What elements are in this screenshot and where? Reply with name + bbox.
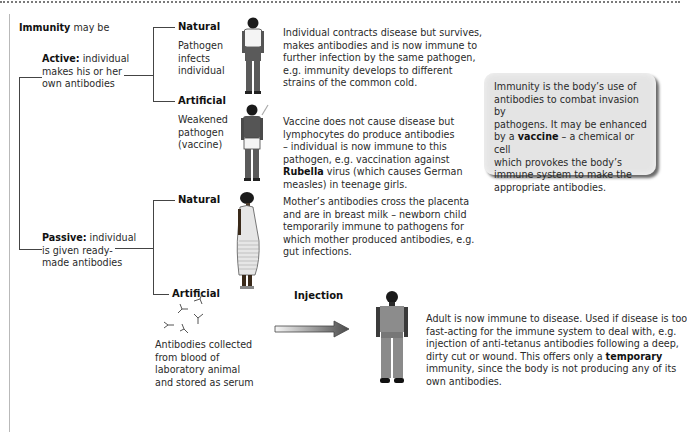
active-artificial-caption: Weakened pathogen (vaccine) bbox=[178, 114, 228, 152]
description-line: immunity, since the body is not producin… bbox=[426, 363, 687, 376]
bracket-main-top bbox=[19, 77, 42, 78]
injection-label: Injection bbox=[294, 290, 343, 301]
vaccinated-man-icon bbox=[240, 103, 270, 183]
passive-artificial-description: Adult is now immune to disease. Used if … bbox=[426, 313, 687, 389]
description-line: own antibodies. bbox=[426, 376, 687, 389]
callout-line: antibodies to combat invasion by bbox=[494, 94, 648, 119]
pregnant-woman-icon bbox=[233, 191, 263, 291]
bracket-main-vertical bbox=[19, 77, 20, 250]
standing-adult-icon bbox=[375, 290, 409, 386]
diagram-title: Immunity may be bbox=[19, 22, 109, 35]
passive-label: Passive: bbox=[42, 232, 87, 243]
bracket-active-bottom bbox=[153, 101, 175, 102]
description-line: Individual contracts disease but survive… bbox=[283, 27, 482, 40]
active-natural-label: Natural bbox=[178, 21, 220, 32]
title-rest: may be bbox=[70, 22, 109, 33]
bracket-passive-vertical bbox=[153, 200, 154, 295]
description-line: Vaccine does not cause disease but bbox=[283, 116, 462, 129]
caption-line: Antibodies collected bbox=[155, 339, 254, 352]
callout-line: appropriate antibodies. bbox=[494, 182, 648, 195]
description-line: gut infections. bbox=[283, 246, 474, 259]
callout-line: pathogens. It may be enhanced bbox=[494, 119, 648, 132]
top-dotted-rule bbox=[0, 1, 680, 3]
active-description: Active: individual makes his or her own … bbox=[42, 53, 129, 91]
passive-artificial-caption: Antibodies collected from blood of labor… bbox=[155, 339, 254, 389]
description-line: Mother’s antibodies cross the placenta bbox=[283, 196, 474, 209]
bracket-main-bottom bbox=[19, 249, 42, 250]
description-line: – individual is now immune to this bbox=[283, 141, 462, 154]
description-line: lymphocytes do produce antibodies bbox=[283, 129, 462, 142]
passive-line3: made antibodies bbox=[42, 257, 136, 270]
bracket-active-stub bbox=[124, 75, 153, 76]
passive-natural-description: Mother’s antibodies cross the placenta a… bbox=[283, 196, 474, 259]
rubella-bold: Rubella bbox=[283, 166, 324, 177]
active-artificial-description: Vaccine does not cause disease but lymph… bbox=[283, 116, 462, 192]
description-line: e.g. immunity develops to different bbox=[283, 65, 482, 78]
passive-description: Passive: individual is given ready- made… bbox=[42, 232, 136, 270]
caption-line: and stored as serum bbox=[155, 377, 254, 390]
caption-line: Weakened bbox=[178, 114, 228, 127]
caption-line: pathogen bbox=[178, 127, 228, 140]
description-line: makes antibodies and is now immune to bbox=[283, 40, 482, 53]
antibody-y-shapes-icon bbox=[158, 292, 218, 338]
left-margin-rule bbox=[9, 14, 10, 432]
description-line: virus (which causes German bbox=[324, 166, 463, 177]
standing-man-icon bbox=[240, 17, 266, 95]
callout-line: by a bbox=[494, 131, 518, 142]
description-line: and are in breast milk – newborn child bbox=[283, 209, 474, 222]
caption-line: Pathogen bbox=[178, 40, 225, 53]
bracket-passive-stub bbox=[115, 248, 153, 249]
caption-line: infects bbox=[178, 53, 225, 66]
description-line: which mother produced antibodies, e.g. bbox=[283, 234, 474, 247]
caption-line: individual bbox=[178, 65, 225, 78]
description-line: fast-acting for the immune system to dea… bbox=[426, 326, 687, 339]
active-natural-description: Individual contracts disease but survive… bbox=[283, 27, 482, 90]
description-line: injection of anti-tetanus antibodies fol… bbox=[426, 338, 687, 351]
temporary-bold: temporary bbox=[606, 351, 663, 362]
caption-line: (vaccine) bbox=[178, 139, 228, 152]
description-line: measles) in teenage girls. bbox=[283, 179, 462, 192]
description-line: temporarily immune to pathogens for bbox=[283, 221, 474, 234]
callout-line: Immunity is the body’s use of bbox=[494, 81, 648, 94]
passive-line2: is given ready- bbox=[42, 245, 136, 258]
description-line: further infection by the same pathogen, bbox=[283, 52, 482, 65]
vaccine-bold: vaccine bbox=[518, 131, 559, 142]
active-line3: own antibodies bbox=[42, 78, 129, 91]
caption-line: laboratory animal bbox=[155, 364, 254, 377]
passive-line1: individual bbox=[87, 232, 137, 243]
description-line: strains of the common cold. bbox=[283, 77, 482, 90]
active-artificial-label: Artificial bbox=[178, 95, 226, 106]
description-line: dirty cut or wound. This offers only a bbox=[426, 351, 606, 362]
bracket-active-vertical bbox=[153, 27, 154, 102]
callout-line: immune system to make the bbox=[494, 169, 648, 182]
active-natural-caption: Pathogen infects individual bbox=[178, 40, 225, 78]
bracket-passive-top bbox=[153, 200, 175, 201]
passive-natural-label: Natural bbox=[178, 194, 220, 205]
right-arrow-icon bbox=[274, 320, 350, 338]
bracket-active-top bbox=[153, 27, 175, 28]
active-label: Active: bbox=[42, 53, 80, 64]
callout-line: which provokes the body’s bbox=[494, 157, 648, 170]
caption-line: from blood of bbox=[155, 352, 254, 365]
description-line: pathogen, e.g. vaccination against bbox=[283, 154, 462, 167]
title-bold: Immunity bbox=[19, 22, 70, 33]
definition-callout: Immunity is the body’s use of antibodies… bbox=[484, 73, 656, 175]
active-line1: individual bbox=[80, 53, 130, 64]
active-line2: makes his or her bbox=[42, 66, 129, 79]
description-line: Adult is now immune to disease. Used if … bbox=[426, 313, 687, 326]
